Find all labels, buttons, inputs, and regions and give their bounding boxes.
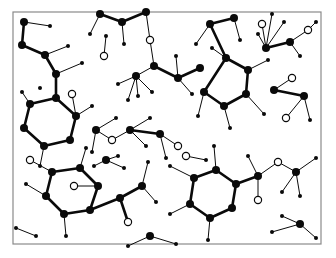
bond (30, 98, 56, 104)
atom-layer (14, 8, 318, 248)
atom-small-filled (298, 54, 302, 58)
atom-large-filled (242, 90, 250, 98)
atom-large-filled (94, 182, 102, 190)
atom-large-filled (190, 174, 198, 182)
atom-large-filled (292, 168, 300, 176)
atom-small-filled (190, 92, 194, 96)
atom-large-filled (52, 70, 60, 78)
atom-open-circle (70, 182, 77, 189)
atom-small-filled (90, 104, 94, 108)
atom-large-filled (232, 180, 240, 188)
atom-small-filled (174, 54, 178, 58)
atom-open-circle (108, 136, 115, 143)
atom-large-filled (174, 74, 182, 82)
atom-small-filled (210, 46, 214, 50)
atom-large-filled (254, 172, 262, 180)
atom-large-filled (150, 62, 158, 70)
atom-small-filled (168, 164, 172, 168)
atom-small-filled (38, 164, 42, 168)
atom-small-filled (150, 90, 154, 94)
bond (24, 128, 44, 146)
atom-open-circle (258, 20, 265, 27)
atom-small-filled (196, 114, 200, 118)
atom-large-filled (230, 14, 238, 22)
atom-small-filled (154, 200, 158, 204)
atom-large-filled (270, 86, 278, 94)
bond (246, 94, 264, 114)
atom-small-filled (84, 146, 88, 150)
figure-canvas (0, 0, 336, 258)
atom-open-circle (26, 156, 33, 163)
atom-small-filled (116, 154, 120, 158)
atom-small-filled (126, 98, 130, 102)
atom-small-filled (90, 150, 94, 154)
bond (286, 96, 304, 118)
atom-small-filled (80, 61, 84, 65)
atom-small-filled (116, 82, 120, 86)
atom-large-filled (132, 72, 140, 80)
atom-large-filled (262, 44, 270, 52)
bond (52, 168, 80, 172)
atom-large-filled (146, 232, 154, 240)
atom-small-filled (122, 42, 126, 46)
bond (150, 236, 176, 244)
atom-small-filled (14, 226, 18, 230)
bond (44, 140, 70, 146)
atom-large-filled (102, 156, 110, 164)
atom-large-filled (126, 126, 134, 134)
atom-small-filled (88, 32, 92, 36)
atom-large-filled (18, 41, 26, 49)
atom-small-filled (144, 144, 148, 148)
atom-open-circle (304, 26, 311, 33)
atom-small-filled (20, 90, 24, 94)
bond (154, 66, 178, 78)
atom-large-filled (86, 206, 94, 214)
atom-small-filled (238, 38, 242, 42)
atom-small-filled (280, 214, 284, 218)
bond (56, 63, 82, 74)
atom-open-circle (288, 74, 295, 81)
atom-large-filled (142, 8, 150, 16)
atom-small-filled (146, 160, 150, 164)
bond (272, 224, 300, 232)
atom-small-filled (64, 234, 68, 238)
atom-small-filled (246, 154, 250, 158)
atom-large-filled (52, 94, 60, 102)
atom-small-filled (164, 156, 168, 160)
atom-small-filled (24, 182, 28, 186)
atom-large-filled (200, 88, 208, 96)
atom-large-filled (20, 18, 28, 26)
bond (204, 58, 226, 92)
atom-large-filled (60, 210, 68, 218)
atom-open-circle (124, 218, 131, 225)
atom-large-filled (118, 18, 126, 26)
atom-small-filled (266, 58, 270, 62)
atom-large-filled (206, 20, 214, 28)
bond-layer (16, 12, 316, 246)
atom-large-filled (42, 192, 50, 200)
atom-large-filled (206, 214, 214, 222)
atom-small-filled (314, 236, 318, 240)
atom-small-filled (282, 20, 286, 24)
atom-large-filled (300, 92, 308, 100)
atom-open-circle (146, 36, 153, 43)
atom-open-circle (274, 158, 281, 165)
atom-large-filled (66, 136, 74, 144)
atom-small-filled (298, 194, 302, 198)
atom-large-filled (41, 51, 49, 59)
atom-small-filled (136, 94, 140, 98)
atom-small-filled (148, 116, 152, 120)
atom-open-circle (282, 114, 289, 121)
atom-large-filled (296, 220, 304, 228)
atom-small-filled (308, 118, 312, 122)
atom-open-circle (254, 196, 261, 203)
bond (130, 130, 160, 134)
atom-small-filled (66, 44, 70, 48)
atom-small-filled (174, 242, 178, 246)
atom-small-filled (280, 190, 284, 194)
atom-large-filled (116, 194, 124, 202)
atom-large-filled (72, 112, 80, 120)
atom-small-filled (92, 164, 96, 168)
atom-small-filled (168, 212, 172, 216)
atom-large-filled (244, 66, 252, 74)
